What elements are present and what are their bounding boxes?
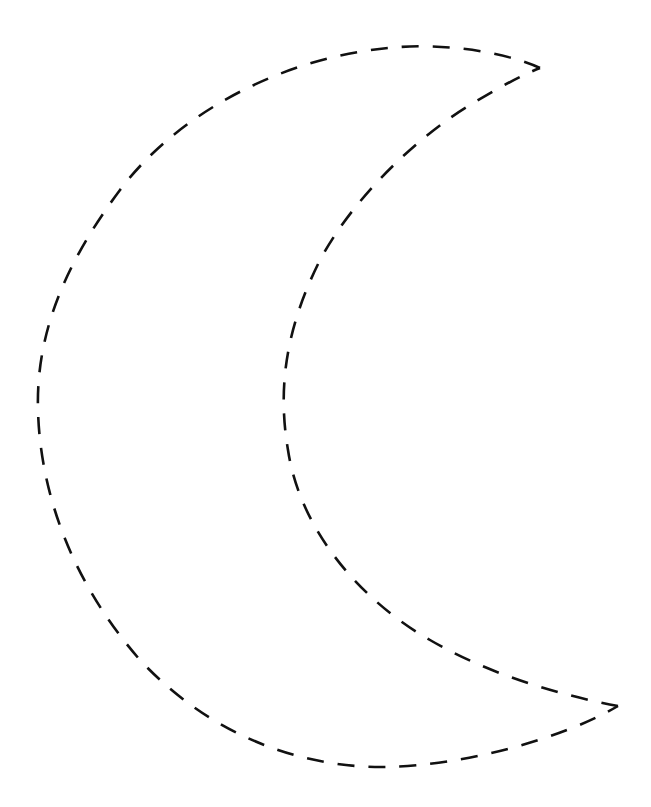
crescent-outer-dashed-curve [38,46,618,767]
crescent-moon-figure [0,0,651,807]
crescent-inner-dashed-curve [284,68,618,706]
